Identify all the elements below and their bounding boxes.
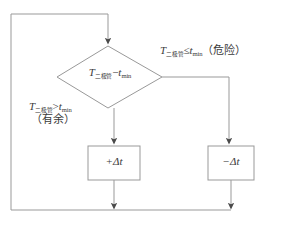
branch-left-operand-subscript: min (62, 106, 72, 113)
branch-left-label: T二极管>tmin （有余） (29, 100, 75, 127)
decision-symbol-subscript: 二极管 (95, 73, 112, 79)
branch-right-label: T二极管≤tmin（危险） (160, 44, 246, 58)
branch-right-symbol-subscript: 二极管 (166, 51, 183, 57)
branch-right-path (162, 77, 229, 141)
decision-label: T二极管−tmin (57, 66, 163, 79)
branch-right-annotation: （危险） (202, 44, 246, 57)
flowchart-canvas: T二极管−tmin T二极管≤tmin（危险） T二极管>tmin （有余） +… (0, 0, 286, 225)
process-box-left-label: +Δt (88, 155, 140, 168)
branch-right-operand-subscript: min (193, 50, 203, 57)
branch-left-symbol-subscript: 二极管 (35, 107, 52, 113)
branch-left-annotation: （有余） (31, 114, 75, 127)
process-box-right-label: −Δt (208, 155, 254, 168)
decision-operand-subscript: min (121, 72, 131, 79)
